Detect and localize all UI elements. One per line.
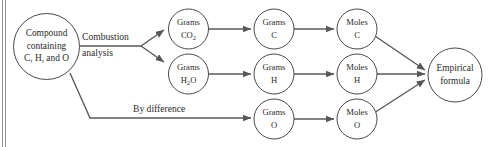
node-grams-h-line1: Grams	[263, 62, 287, 72]
node-grams-h2o-line1: Grams	[177, 62, 201, 72]
node-moles-c-line2: C	[354, 30, 360, 40]
node-moles-o-line2: O	[354, 120, 360, 130]
node-grams-h2o-circle	[169, 54, 209, 94]
node-moles-h-line2: H	[354, 75, 360, 85]
node-moles-o: Moles O	[337, 99, 377, 139]
node-grams-h: Grams H	[254, 54, 294, 94]
node-grams-co2: Grams CO2	[169, 9, 209, 49]
node-empirical-formula-circle	[428, 48, 482, 102]
node-grams-h2o: Grams H2O	[169, 54, 209, 94]
combustion-analysis-diagram: Compound containing C, H, and O Grams CO…	[0, 0, 488, 147]
node-moles-o-line1: Moles	[346, 107, 368, 117]
node-grams-c-line2: C	[271, 30, 277, 40]
edge-label-combustion-line1: Combustion	[82, 31, 129, 42]
edge-moles-c-to-empirical	[372, 34, 425, 70]
node-grams-c-line1: Grams	[263, 17, 287, 27]
edge-moles-o-to-empirical	[374, 80, 425, 113]
node-grams-o-line2: O	[271, 120, 277, 130]
node-moles-c: Moles C	[337, 9, 377, 49]
edge-label-combustion-line2: analysis	[82, 47, 113, 58]
node-compound-line1: Compound	[26, 28, 68, 38]
node-grams-co2-line1: Grams	[177, 17, 201, 27]
diagram-canvas: Compound containing C, H, and O Grams CO…	[0, 0, 488, 147]
node-moles-c-line1: Moles	[346, 17, 368, 27]
node-compound-line2: containing	[27, 41, 67, 51]
edge-label-by-difference: By difference	[133, 103, 185, 114]
node-compound-line3: C, H, and O	[24, 53, 69, 63]
node-moles-h: Moles H	[337, 54, 377, 94]
edge-branch-to-grams-co2	[141, 30, 164, 46]
node-grams-o-line1: Grams	[263, 107, 287, 117]
node-grams-h-line2: H	[271, 75, 277, 85]
node-empirical-formula-line1: Empirical	[437, 63, 474, 73]
node-grams-o: Grams O	[254, 99, 294, 139]
node-grams-c: Grams C	[254, 9, 294, 49]
node-moles-h-line1: Moles	[346, 62, 368, 72]
node-empirical-formula-line2: formula	[440, 76, 471, 86]
edge-branch-to-grams-h2o	[141, 46, 164, 62]
node-compound: Compound containing C, H, and O	[14, 14, 80, 80]
node-empirical-formula: Empirical formula	[428, 48, 482, 102]
